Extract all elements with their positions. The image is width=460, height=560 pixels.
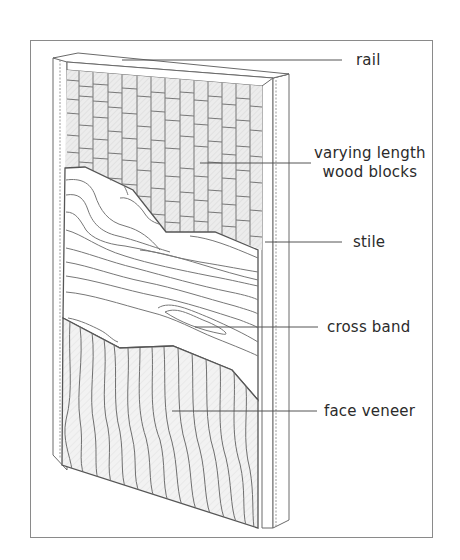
right-stile — [262, 74, 289, 528]
label-wood-blocks-line2: wood blocks — [314, 163, 426, 182]
label-wood-blocks-line1: varying length — [314, 144, 426, 163]
label-stile: stile — [353, 233, 385, 251]
label-cross-band: cross band — [327, 318, 410, 336]
label-face-veneer: face veneer — [324, 402, 415, 420]
diagram-figure: rail varying length wood blocks stile cr… — [0, 0, 460, 560]
label-wood-blocks: varying length wood blocks — [314, 144, 426, 182]
door-construction-drawing — [0, 0, 460, 560]
label-rail: rail — [356, 51, 381, 69]
